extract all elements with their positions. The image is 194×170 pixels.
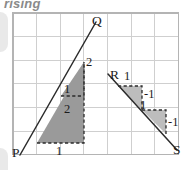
point-label-P: P — [12, 146, 20, 160]
measure-label-pq-run-upper: 1 — [64, 83, 70, 96]
measure-label-pq-rise-lower: 2 — [64, 103, 70, 116]
measure-label-rs-rise-second: -1 — [168, 116, 178, 129]
measure-label-rs-run-first: 1 — [124, 70, 130, 83]
point-label-R: R — [110, 68, 119, 82]
measure-label-pq-rise-upper: 2 — [86, 56, 92, 69]
diagram-root: rising P Q R S 2 1 2 1 1 -1 1 -1 — [0, 0, 194, 170]
point-label-S: S — [173, 143, 181, 157]
measure-label-rs-run-second: 1 — [140, 99, 146, 112]
page-title: rising — [4, 0, 41, 11]
point-label-Q: Q — [92, 14, 102, 28]
measure-label-pq-run-lower: 1 — [56, 145, 62, 158]
